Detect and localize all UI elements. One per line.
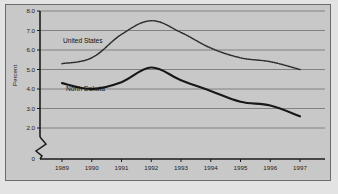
x-tick-label: 1990 xyxy=(85,164,99,171)
series-line-united-states xyxy=(62,21,300,70)
x-tick-label: 1993 xyxy=(174,164,188,171)
y-tick-label: 8.0 xyxy=(26,7,35,14)
y-tick-label: 5.0 xyxy=(26,66,35,73)
line-chart: 8.07.06.05.04.03.02.00 19891990199119921… xyxy=(0,0,338,194)
y-tick-label: 2.0 xyxy=(26,124,35,131)
series-label-north-dakota: North Dakota xyxy=(66,85,105,92)
y-tick-label: 3.0 xyxy=(26,105,35,112)
x-tick-label: 1997 xyxy=(293,164,307,171)
x-tick-label: 1992 xyxy=(144,164,158,171)
chart-figure: 8.07.06.05.04.03.02.00 19891990199119921… xyxy=(0,0,338,194)
x-tick-label: 1994 xyxy=(204,164,218,171)
x-tick-label: 1989 xyxy=(55,164,69,171)
x-tick-label: 1991 xyxy=(115,164,129,171)
x-tick-label: 1995 xyxy=(234,164,248,171)
axis-break-icon xyxy=(36,137,46,159)
x-tick-label: 1996 xyxy=(263,164,277,171)
y-tick-label: 7.0 xyxy=(26,27,35,34)
y-tick-label: 0 xyxy=(32,155,36,162)
y-tick-label: 6.0 xyxy=(26,46,35,53)
y-tick-labels-group: 8.07.06.05.04.03.02.00 xyxy=(26,7,35,162)
y-tick-label: 4.0 xyxy=(26,85,35,92)
x-tick-labels-group: 198919901991199219931994199519961997 xyxy=(55,164,307,171)
y-axis-title: Percent xyxy=(11,65,18,87)
series-label-united-states: United States xyxy=(63,37,103,44)
